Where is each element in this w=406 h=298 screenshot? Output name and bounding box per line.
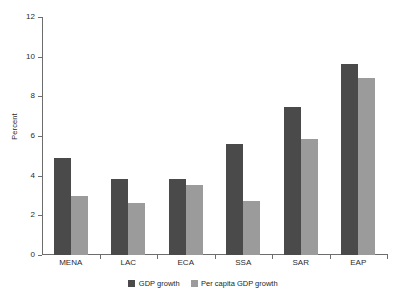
plot-area [42,17,387,255]
y-axis-tick [38,136,42,137]
x-axis-category-label: SAR [271,259,331,267]
x-axis-category-label: EAP [328,259,388,267]
y-axis-tick-label: 0 [9,251,35,259]
bar [226,144,243,255]
legend-label: Per capita GDP growth [201,279,278,288]
y-axis-line [42,17,43,255]
x-axis-category-label: ECA [156,259,216,267]
bar [341,64,358,255]
y-axis-tick [38,255,42,256]
y-axis-tick-label: 2 [9,211,35,219]
x-axis-category-label: SSA [213,259,273,267]
bar [111,179,128,255]
bar [169,179,186,255]
bar [128,203,145,255]
legend-swatch-icon [128,280,135,287]
bar [243,201,260,255]
y-axis-tick [38,17,42,18]
y-axis-tick-label: 8 [9,92,35,100]
bar [358,78,375,255]
y-axis-tick-label: 4 [9,172,35,180]
bar [54,158,71,255]
legend-item[interactable]: Per capita GDP growth [191,279,278,288]
y-axis-tick [38,215,42,216]
y-axis-tick [38,96,42,97]
x-axis-category-label: LAC [98,259,158,267]
y-axis-tick-label: 12 [9,13,35,21]
bar [186,185,203,255]
y-axis-tick-label: 6 [9,132,35,140]
y-axis-title: Percent [10,97,19,157]
legend-item[interactable]: GDP growth [128,279,179,288]
bar [301,139,318,255]
y-axis-tick-label: 10 [9,53,35,61]
bar [284,107,301,255]
y-axis-tick [38,57,42,58]
chart-legend: GDP growthPer capita GDP growth [0,279,406,288]
legend-label: GDP growth [139,279,180,288]
legend-swatch-icon [191,280,198,287]
bar [71,196,88,256]
y-axis-tick [38,176,42,177]
bar-chart: Percent GDP growthPer capita GDP growth … [0,0,406,298]
x-axis-category-label: MENA [41,259,101,267]
